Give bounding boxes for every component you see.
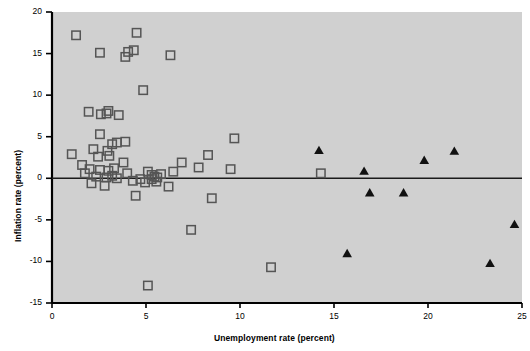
y-tick-label: 5 xyxy=(0,131,42,141)
y-tick-label: -10 xyxy=(0,255,42,265)
y-axis-title: Inflation rate (percent) xyxy=(13,150,23,242)
x-tick-label: 20 xyxy=(408,311,448,321)
y-tick-label: -5 xyxy=(0,214,42,224)
scatter-chart: Inflation rate (percent) Unemployment ra… xyxy=(0,0,530,351)
x-axis-title: Unemployment rate (percent) xyxy=(214,333,335,343)
x-tick-label: 15 xyxy=(314,311,354,321)
x-tick-label: 0 xyxy=(32,311,72,321)
x-tick-label: 5 xyxy=(126,311,166,321)
y-tick-label: 10 xyxy=(0,89,42,99)
y-tick-label: 20 xyxy=(0,6,42,16)
y-tick-label: 15 xyxy=(0,48,42,58)
plot-area-background xyxy=(52,12,522,303)
chart-canvas xyxy=(0,0,530,351)
y-tick-label: 0 xyxy=(0,172,42,182)
y-tick-label: -15 xyxy=(0,297,42,307)
x-tick-label: 25 xyxy=(502,311,530,321)
x-tick-label: 10 xyxy=(220,311,260,321)
